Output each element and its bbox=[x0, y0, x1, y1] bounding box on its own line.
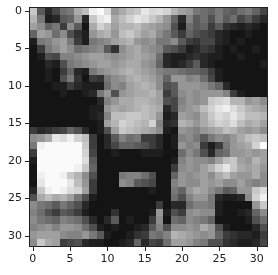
y-tick-mark bbox=[25, 11, 29, 12]
y-tick-label: 10 bbox=[2, 79, 22, 92]
y-tick-label: 20 bbox=[2, 154, 22, 167]
y-tick-mark bbox=[25, 123, 29, 124]
y-tick-mark bbox=[25, 236, 29, 237]
x-tick-label: 30 bbox=[247, 252, 267, 265]
y-tick-mark bbox=[25, 86, 29, 87]
x-tick-mark bbox=[257, 247, 258, 251]
x-tick-mark bbox=[33, 247, 34, 251]
y-tick-label: 25 bbox=[2, 191, 22, 204]
x-tick-mark bbox=[107, 247, 108, 251]
heatmap-plot-area bbox=[29, 7, 268, 247]
heatmap-image bbox=[30, 8, 267, 246]
x-tick-mark bbox=[145, 247, 146, 251]
y-tick-mark bbox=[25, 48, 29, 49]
x-tick-label: 0 bbox=[23, 252, 43, 265]
x-tick-mark bbox=[219, 247, 220, 251]
x-tick-label: 5 bbox=[60, 252, 80, 265]
y-tick-label: 5 bbox=[2, 41, 22, 54]
x-tick-mark bbox=[70, 247, 71, 251]
y-tick-label: 30 bbox=[2, 229, 22, 242]
y-tick-label: 15 bbox=[2, 116, 22, 129]
x-tick-label: 10 bbox=[97, 252, 117, 265]
x-tick-label: 20 bbox=[172, 252, 192, 265]
y-tick-mark bbox=[25, 161, 29, 162]
x-tick-mark bbox=[182, 247, 183, 251]
x-tick-label: 25 bbox=[209, 252, 229, 265]
y-tick-mark bbox=[25, 198, 29, 199]
x-tick-label: 15 bbox=[135, 252, 155, 265]
y-tick-label: 0 bbox=[2, 4, 22, 17]
